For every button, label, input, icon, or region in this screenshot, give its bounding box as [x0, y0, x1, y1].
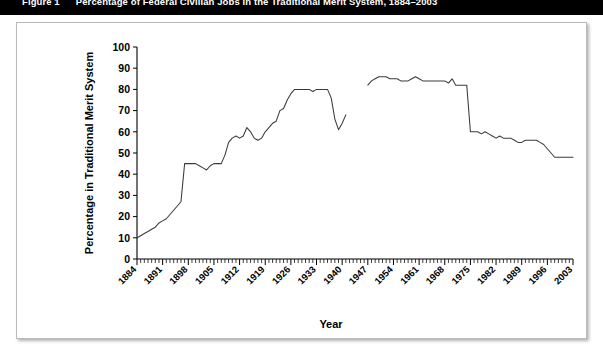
- x-tick-label-group-1975: 1975: [449, 263, 472, 286]
- x-tick-label-1884: 1884: [116, 263, 139, 286]
- figure-caption-bar: Figure 1Percentage of Federal Civilian J…: [0, 0, 603, 15]
- y-tick-label-60: 60: [118, 126, 130, 138]
- x-tick-label-group-1947: 1947: [347, 264, 370, 287]
- x-tick-label-group-1912: 1912: [218, 264, 241, 287]
- x-tick-label-group-2003: 2003: [552, 264, 575, 287]
- x-tick-label-1891: 1891: [141, 263, 164, 286]
- series-0-segment-1: [368, 77, 573, 158]
- y-axis-title: Percentage in Traditional Merit System: [83, 52, 95, 255]
- x-tick-label-group-1926: 1926: [270, 264, 293, 287]
- x-tick-label-group-1954: 1954: [372, 263, 395, 286]
- figure-number: Figure 1: [22, 0, 60, 7]
- y-tick-label-20: 20: [118, 210, 130, 222]
- x-tick-label-group-1898: 1898: [167, 264, 190, 287]
- line-chart: 0102030405060708090100188418911898190519…: [17, 23, 588, 340]
- x-tick-label-1975: 1975: [449, 263, 472, 286]
- x-tick-label-group-1933: 1933: [295, 264, 318, 287]
- x-tick-label-1926: 1926: [270, 264, 293, 287]
- x-tick-label-1968: 1968: [423, 264, 446, 287]
- x-tick-label-1898: 1898: [167, 264, 190, 287]
- series-0-segment-0: [137, 89, 346, 237]
- y-tick-label-10: 10: [118, 232, 130, 244]
- x-tick-label-2003: 2003: [552, 264, 575, 287]
- x-tick-label-1982: 1982: [475, 264, 498, 287]
- x-axis-title: Year: [319, 318, 343, 330]
- x-tick-label-1919: 1919: [244, 264, 267, 287]
- figure-title: Percentage of Federal Civilian Jobs in t…: [76, 0, 438, 7]
- x-tick-label-group-1919: 1919: [244, 264, 267, 287]
- figure-card: 0102030405060708090100188418911898190519…: [16, 22, 587, 339]
- y-axis-title-group: Percentage in Traditional Merit System: [83, 52, 95, 255]
- y-tick-label-80: 80: [118, 83, 130, 95]
- x-tick-label-group-1968: 1968: [423, 264, 446, 287]
- x-tick-label-group-1891: 1891: [141, 263, 164, 286]
- x-tick-label-1989: 1989: [500, 264, 523, 287]
- x-tick-label-1912: 1912: [218, 264, 241, 287]
- x-tick-label-group-1996: 1996: [526, 264, 549, 287]
- x-tick-label-1933: 1933: [295, 264, 318, 287]
- y-tick-label-30: 30: [118, 189, 130, 201]
- y-tick-label-90: 90: [118, 62, 130, 74]
- x-tick-label-1954: 1954: [372, 263, 395, 286]
- y-tick-label-50: 50: [118, 147, 130, 159]
- x-tick-label-group-1940: 1940: [321, 264, 344, 287]
- x-tick-label-1940: 1940: [321, 264, 344, 287]
- y-tick-label-0: 0: [124, 253, 130, 265]
- x-tick-label-group-1989: 1989: [500, 264, 523, 287]
- x-tick-label-group-1884: 1884: [116, 263, 139, 286]
- x-tick-label-1947: 1947: [347, 264, 370, 287]
- x-tick-label-group-1961: 1961: [398, 263, 421, 286]
- x-tick-label-1996: 1996: [526, 264, 549, 287]
- y-tick-label-40: 40: [118, 168, 130, 180]
- figure-caption-text: Figure 1Percentage of Federal Civilian J…: [22, 0, 437, 7]
- chart-area: 0102030405060708090100188418911898190519…: [17, 23, 588, 340]
- x-tick-label-1961: 1961: [398, 263, 421, 286]
- y-tick-label-100: 100: [112, 41, 130, 53]
- x-tick-label-group-1905: 1905: [193, 263, 216, 286]
- x-tick-label-group-1982: 1982: [475, 264, 498, 287]
- y-tick-label-70: 70: [118, 104, 130, 116]
- x-tick-label-1905: 1905: [193, 263, 216, 286]
